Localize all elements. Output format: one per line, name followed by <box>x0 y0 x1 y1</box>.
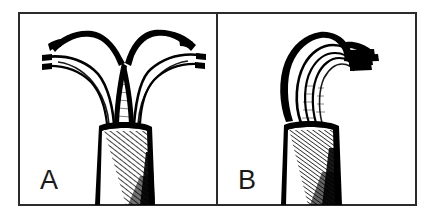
panel-a-left-outer-lobe <box>48 31 125 66</box>
panel-a-stem <box>95 122 155 205</box>
panel-a-stem-hatching <box>104 128 155 205</box>
panel-a-right-inner-blade <box>134 53 206 124</box>
panel-a-drawing: A <box>40 30 206 205</box>
panel-a-right-outer-lobe <box>125 30 196 66</box>
panel-b-drawing: B <box>238 32 379 205</box>
panel-a-inner-column <box>114 63 134 124</box>
botanical-line-drawing: A <box>0 0 434 219</box>
panel-b-label: B <box>238 165 256 195</box>
panel-b-stem <box>281 121 342 205</box>
panel-a-label: A <box>40 165 58 195</box>
panel-b-stem-hatching <box>289 127 342 205</box>
panel-a-left-inner-blade <box>42 54 114 124</box>
figure-container: A <box>0 0 434 219</box>
figure-frame <box>19 13 416 205</box>
